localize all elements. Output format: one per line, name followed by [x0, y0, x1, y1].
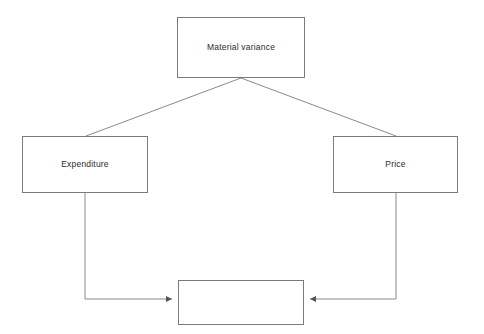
node-label-expenditure: Expenditure — [61, 159, 109, 169]
diagram-canvas: Material variance Expenditure Price — [0, 0, 484, 334]
node-expenditure[interactable]: Expenditure — [22, 136, 148, 193]
node-label-price: Price — [385, 159, 405, 169]
connector-material-variance-to-price — [241, 78, 396, 136]
connector-expenditure-to-result — [85, 193, 172, 299]
node-price[interactable]: Price — [333, 136, 458, 193]
connector-material-variance-to-expenditure — [86, 78, 241, 136]
node-result-empty[interactable] — [178, 280, 304, 325]
node-label-material-variance: Material variance — [207, 42, 275, 52]
node-material-variance[interactable]: Material variance — [177, 17, 305, 78]
connector-price-to-result — [310, 193, 396, 299]
